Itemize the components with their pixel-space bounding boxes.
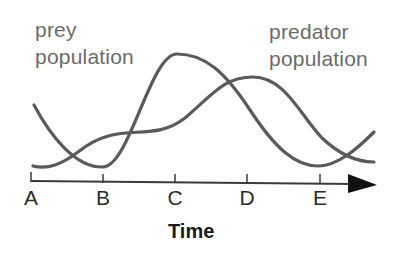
time-axis-arrowhead <box>348 174 377 193</box>
tick-label-a: A <box>16 186 46 210</box>
prey-population-label: prey population <box>35 16 134 70</box>
tick-label-c: C <box>160 186 190 210</box>
time-axis-title: Time <box>168 220 214 243</box>
tick-label-d: D <box>232 186 262 210</box>
tick-label-b: B <box>88 186 118 210</box>
predator-population-label: predator population <box>269 18 368 72</box>
time-axis-line <box>31 181 355 184</box>
predator-population-curve <box>33 77 374 167</box>
tick-label-e: E <box>305 186 335 210</box>
